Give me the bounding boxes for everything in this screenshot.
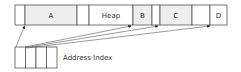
segment-heap-label: Heap [102,12,121,20]
index-cell-4 [47,47,58,68]
arrow-to-b [25,26,131,47]
segment-b-label: B [140,12,145,20]
pointer-arrows [16,26,210,48]
segment-empty-3 [152,5,160,25]
arrow-to-d [27,26,210,48]
address-index: Address Index [15,47,112,68]
segment-d-label: D [216,12,221,20]
segment-a-label: A [49,12,54,20]
memory-bar: A Heap B C D [15,5,227,25]
arrow-to-a [16,26,25,47]
index-cell-1 [15,47,26,68]
segment-c-label: C [174,12,179,20]
segment-empty-1 [15,5,25,25]
index-cell-2 [26,47,37,68]
index-cell-3 [36,47,47,68]
segment-empty-2 [77,5,89,25]
arrow-to-c [26,26,158,48]
address-index-label: Address Index [63,54,112,62]
memory-layout-diagram: A Heap B C D Address Index [0,0,241,72]
segment-empty-4 [192,5,210,25]
